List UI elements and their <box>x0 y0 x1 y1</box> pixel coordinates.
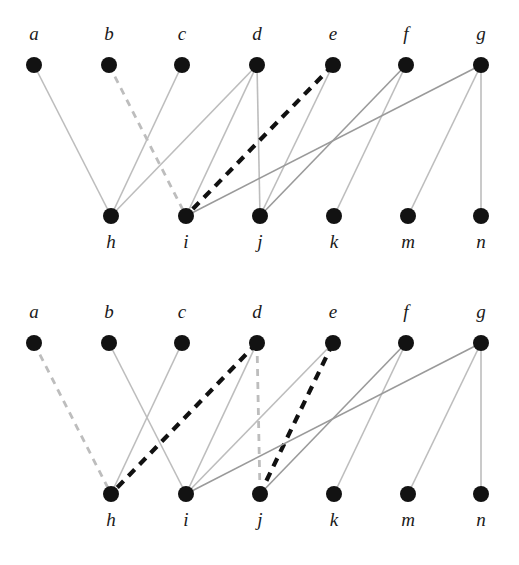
node-label-m: m <box>401 509 415 530</box>
edge-b-i <box>109 65 186 216</box>
node-label-a: a <box>29 301 39 322</box>
node-m[interactable] <box>400 208 416 224</box>
node-c[interactable] <box>174 335 190 351</box>
node-label-j: j <box>254 509 262 530</box>
node-label-c: c <box>178 23 187 44</box>
node-a[interactable] <box>26 57 42 73</box>
node-label-n: n <box>476 509 486 530</box>
edge-d-h <box>111 65 257 216</box>
node-label-h: h <box>106 231 116 252</box>
node-e[interactable] <box>325 57 341 73</box>
edge-layer <box>34 343 481 494</box>
node-label-d: d <box>252 301 262 322</box>
node-label-k: k <box>330 231 339 252</box>
edge-d-i <box>186 343 257 494</box>
node-j[interactable] <box>252 486 268 502</box>
edge-d-i <box>186 65 257 216</box>
node-label-i: i <box>183 231 188 252</box>
node-k[interactable] <box>326 486 342 502</box>
node-label-c: c <box>178 301 187 322</box>
node-m[interactable] <box>400 486 416 502</box>
node-g[interactable] <box>473 335 489 351</box>
top-node-row: abcdefg <box>26 301 489 351</box>
node-label-e: e <box>329 23 337 44</box>
node-h[interactable] <box>103 486 119 502</box>
node-j[interactable] <box>252 208 268 224</box>
edge-g-i <box>186 343 481 494</box>
edge-f-k <box>334 343 406 494</box>
node-h[interactable] <box>103 208 119 224</box>
edge-e-j <box>260 65 333 216</box>
edge-layer <box>34 65 481 216</box>
node-b[interactable] <box>101 335 117 351</box>
node-d[interactable] <box>249 335 265 351</box>
edge-g-m <box>408 65 481 216</box>
node-c[interactable] <box>174 57 190 73</box>
top-node-row: abcdefg <box>26 23 489 73</box>
node-d[interactable] <box>249 57 265 73</box>
node-g[interactable] <box>473 57 489 73</box>
node-e[interactable] <box>325 335 341 351</box>
node-label-a: a <box>29 23 39 44</box>
node-k[interactable] <box>326 208 342 224</box>
bottom-node-row: hijkmn <box>103 486 489 530</box>
edge-c-h <box>111 343 182 494</box>
edge-g-i <box>186 65 481 216</box>
node-label-f: f <box>403 23 411 44</box>
node-label-h: h <box>106 509 116 530</box>
node-n[interactable] <box>473 208 489 224</box>
node-i[interactable] <box>178 208 194 224</box>
edge-a-h <box>34 343 111 494</box>
node-label-f: f <box>403 301 411 322</box>
edge-d-j <box>257 65 260 216</box>
node-n[interactable] <box>473 486 489 502</box>
node-label-b: b <box>104 301 114 322</box>
node-label-n: n <box>476 231 486 252</box>
node-label-e: e <box>329 301 337 322</box>
node-label-d: d <box>252 23 262 44</box>
node-label-k: k <box>330 509 339 530</box>
node-f[interactable] <box>398 57 414 73</box>
edge-f-k <box>334 65 406 216</box>
node-a[interactable] <box>26 335 42 351</box>
bottom-bipartite-graph: abcdefghijkmn <box>26 301 489 530</box>
edge-c-h <box>111 65 182 216</box>
edge-e-i <box>186 343 333 494</box>
node-label-g: g <box>476 301 486 322</box>
bottom-node-row: hijkmn <box>103 208 489 252</box>
bipartite-graph-figure: abcdefghijkmnabcdefghijkmn <box>0 0 519 565</box>
edge-a-h <box>34 65 111 216</box>
node-label-g: g <box>476 23 486 44</box>
node-i[interactable] <box>178 486 194 502</box>
edge-d-h <box>111 343 257 494</box>
edge-e-j <box>260 343 333 494</box>
edge-b-i <box>109 343 186 494</box>
node-f[interactable] <box>398 335 414 351</box>
graph-canvas: abcdefghijkmnabcdefghijkmn <box>0 0 519 565</box>
edge-g-m <box>408 343 481 494</box>
node-label-b: b <box>104 23 114 44</box>
node-label-j: j <box>254 231 262 252</box>
node-label-i: i <box>183 509 188 530</box>
node-label-m: m <box>401 231 415 252</box>
node-b[interactable] <box>101 57 117 73</box>
top-bipartite-graph: abcdefghijkmn <box>26 23 489 252</box>
